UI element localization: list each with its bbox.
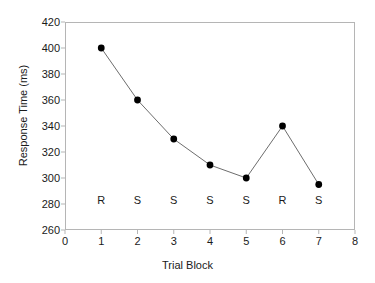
condition-label: S bbox=[307, 195, 331, 206]
condition-annotations: RSSSSRS bbox=[0, 0, 375, 283]
x-axis-title: Trial Block bbox=[0, 260, 375, 271]
condition-label: R bbox=[271, 195, 295, 206]
condition-label: S bbox=[234, 195, 258, 206]
condition-label: R bbox=[89, 195, 113, 206]
chart-figure: 260280300320340360380400420 012345678 RS… bbox=[0, 0, 375, 283]
condition-label: S bbox=[162, 195, 186, 206]
condition-label: S bbox=[198, 195, 222, 206]
condition-label: S bbox=[126, 195, 150, 206]
y-axis-title: Response Time (ms) bbox=[18, 31, 29, 201]
